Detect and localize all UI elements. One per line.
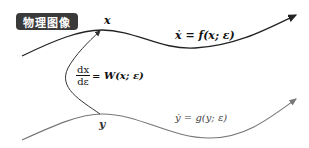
fraction-numerator: dx xyxy=(76,64,90,76)
equation-w-rhs: = W(x; ε) xyxy=(92,70,144,81)
equation-f: ẋ = f(x; ε) xyxy=(175,29,235,42)
point-y-label: y xyxy=(99,118,105,131)
equation-g: ẏ = g(y; ε) xyxy=(175,112,227,123)
derivative-fraction: dx dε xyxy=(76,64,90,87)
equation-w: dx dε = W(x; ε) xyxy=(76,64,144,87)
physical-picture-badge: 物理图像 xyxy=(16,13,78,30)
point-x-label: x xyxy=(104,14,111,27)
fraction-denominator: dε xyxy=(77,76,89,87)
lower-trajectory-curve xyxy=(22,99,296,140)
